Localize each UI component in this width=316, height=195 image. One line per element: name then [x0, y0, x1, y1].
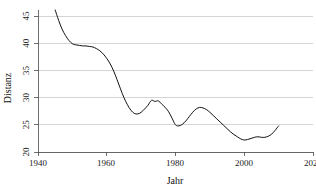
x-tick-label-2000: 2000: [235, 158, 254, 168]
x-tick-label-2020: 2020: [304, 158, 316, 168]
y-tick-label-20: 20: [21, 147, 31, 157]
x-tick-label-1980: 1980: [166, 158, 185, 168]
y-axis-title: Distanz: [2, 72, 13, 103]
x-tick-labels: 1940 1960 1980 2000 2020: [29, 158, 316, 168]
y-tick-label-35: 35: [21, 65, 31, 75]
data-line-distanz: [55, 10, 278, 140]
x-axis-title: Jahr: [167, 175, 184, 186]
axis-spines: [38, 10, 313, 152]
gridlines: [38, 16, 313, 152]
y-tick-labels: 45 40 35 30 25 20: [21, 11, 31, 157]
y-tick-label-30: 30: [21, 93, 31, 103]
x-tick-label-1940: 1940: [29, 158, 48, 168]
chart-figure: 45 40 35 30 25 20 1940 1960 1980 2000 20…: [0, 0, 316, 195]
y-tickmarks: [34, 16, 38, 152]
y-tick-label-40: 40: [21, 38, 31, 48]
x-tick-label-1960: 1960: [97, 158, 116, 168]
distanz-jahr-line-chart: 45 40 35 30 25 20 1940 1960 1980 2000 20…: [0, 0, 316, 195]
y-tick-label-25: 25: [21, 120, 31, 130]
caption-remnant-text: [0, 189, 316, 195]
y-tick-label-45: 45: [21, 11, 31, 21]
x-tickmarks: [38, 152, 313, 156]
